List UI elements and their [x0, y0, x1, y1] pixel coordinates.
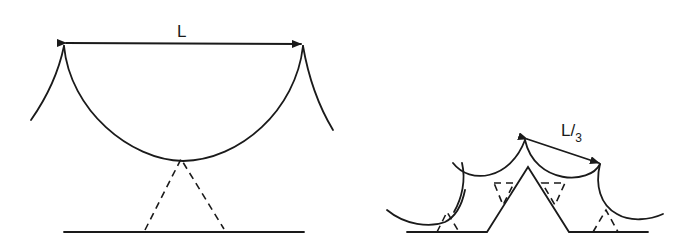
right-neighbor-arc — [303, 46, 333, 130]
left-neighbor-arc — [31, 46, 64, 120]
arc-right-lower — [598, 164, 663, 219]
span-label-L: L — [177, 22, 186, 41]
main-arc — [64, 46, 303, 161]
diagram-canvas: L L/3 — [0, 0, 685, 241]
span-arrow-left-figure — [66, 43, 301, 44]
dashed-triangle-far-left — [437, 212, 459, 232]
span-arrow-right-figure — [527, 139, 599, 163]
arc-far-left — [387, 190, 465, 225]
right-figure: L/3 — [387, 121, 663, 232]
span-label-L-third: L/3 — [561, 121, 582, 145]
dashed-support-triangle — [145, 159, 224, 230]
left-figure: L — [31, 22, 333, 232]
